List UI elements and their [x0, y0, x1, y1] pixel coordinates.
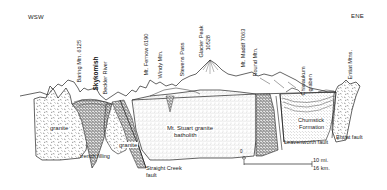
- scale-miles: 10 mi.: [313, 158, 328, 164]
- granite-left-block: [34, 86, 88, 160]
- label-chumstick: Chumstick: [297, 118, 325, 124]
- label-batholith: batholith: [173, 132, 198, 138]
- label-mt-fernow: Mt. Fernow 6190: [144, 34, 150, 76]
- label-glacier-peak-elevation: 10528: [206, 35, 212, 51]
- metamorphic-right-block: [256, 94, 278, 156]
- direction-ene: ENE: [351, 13, 364, 19]
- label-granite-mid: granite: [118, 142, 138, 148]
- label-leavenworth-fault: Leavenworth fault: [284, 140, 328, 146]
- scale-bar: [243, 157, 312, 167]
- label-graben: graben: [308, 74, 314, 91]
- label-beckler-river: Beckler River: [103, 61, 109, 94]
- label-mt-stuart-granite: Mt. Stuart granite: [166, 125, 214, 131]
- cross-section-diagram: WSW ENE Baring Mtn. 6125 Skykomish Beckl…: [0, 0, 387, 190]
- label-stevens-pass: Stevens Pass: [180, 42, 186, 76]
- label-skykomish: Skykomish: [93, 57, 99, 91]
- label-trench-filling: trench filling: [80, 154, 110, 160]
- label-baring-mtn: Baring Mtn. 6125: [77, 40, 83, 83]
- label-round-mtn: Round Mtn.: [253, 48, 259, 77]
- label-mt-maddf: Mt. Maddf 7063: [241, 29, 247, 68]
- label-windy-mtn: Windy Mtn.: [158, 51, 164, 79]
- label-chiwaukum: Chiwaukum: [301, 66, 307, 95]
- scale-km: 16 km.: [313, 166, 330, 172]
- scale-zero: 0: [240, 150, 243, 155]
- label-straight-creek-fault: fault: [146, 173, 157, 179]
- entiat-block: [332, 80, 360, 142]
- label-straight-creek: Straight Creek: [146, 166, 182, 172]
- label-glacier-peak: Glacier Peak: [199, 26, 205, 58]
- direction-wsw: WSW: [28, 14, 44, 20]
- label-entiat-fault: Entiat fault: [336, 135, 362, 141]
- label-formation: Formation: [298, 125, 325, 131]
- label-granite-left: granite: [49, 125, 69, 131]
- label-entiat-mtns: Entiat Mtns.: [348, 50, 354, 80]
- cross-section-drawing: [0, 0, 387, 190]
